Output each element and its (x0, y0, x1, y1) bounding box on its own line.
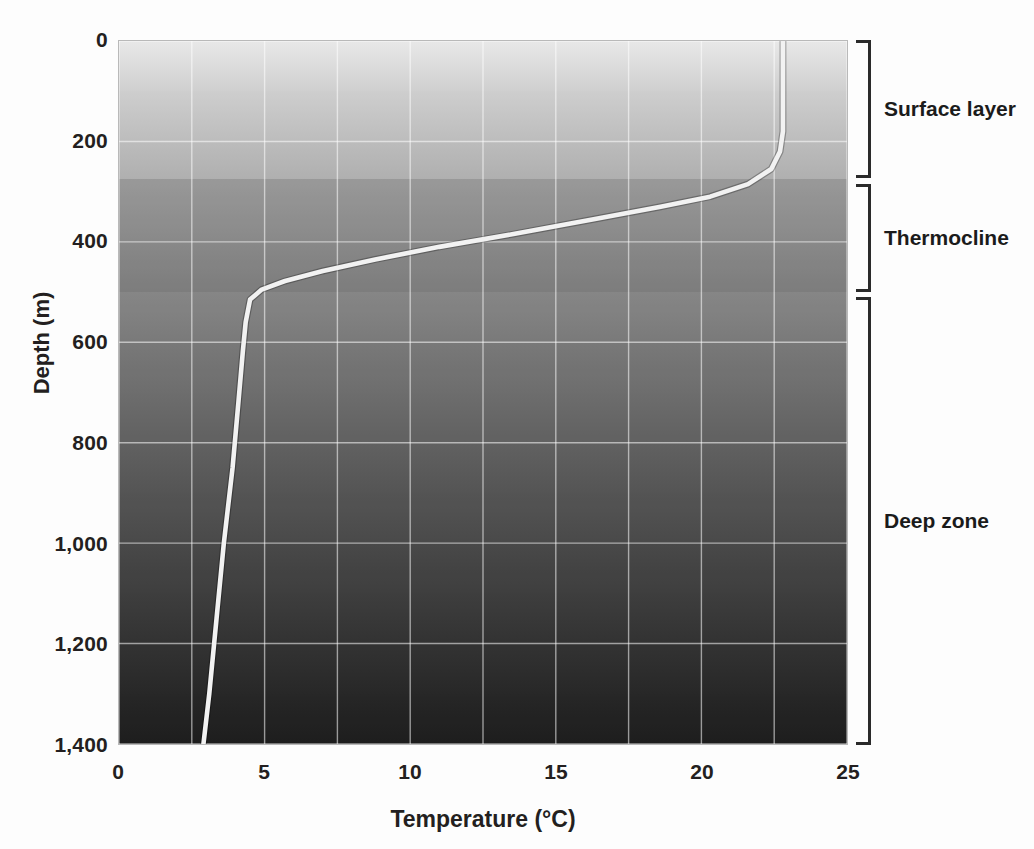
x-tick-label: 10 (370, 760, 450, 784)
x-tick-label: 20 (662, 760, 742, 784)
x-tick-label: 5 (224, 760, 304, 784)
y-tick-label: 1,400 (0, 733, 108, 757)
temperature-profile-curve (119, 41, 847, 744)
zone-label: Deep zone (884, 509, 989, 533)
figure-page: What factors affect the surface temperat… (0, 0, 1034, 849)
x-axis-title: Temperature (°C) (118, 806, 848, 833)
y-tick-label: 0 (0, 28, 108, 52)
zone-bracket (856, 184, 871, 292)
x-axis-tick-labels: 0510152025 (118, 760, 848, 790)
curve-shadow (203, 41, 782, 744)
y-tick-label: 1,000 (0, 532, 108, 556)
plot-area (118, 40, 848, 745)
y-tick-label: 1,200 (0, 632, 108, 656)
zone-label: Thermocline (884, 226, 1009, 250)
zone-label: Surface layer (884, 97, 1016, 121)
zone-bracket (856, 297, 871, 745)
zone-bracket (856, 40, 871, 178)
y-tick-label: 200 (0, 129, 108, 153)
x-tick-label: 25 (808, 760, 888, 784)
x-tick-label: 15 (516, 760, 596, 784)
temperature-line (203, 41, 782, 744)
y-axis-title: Depth (m) (29, 243, 55, 443)
x-tick-label: 0 (78, 760, 158, 784)
